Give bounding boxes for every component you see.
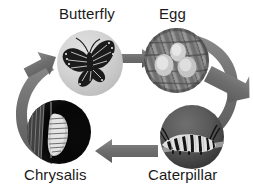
butterfly-life-cycle-diagram: Butterfly bbox=[0, 0, 253, 191]
egg-photo bbox=[144, 28, 209, 93]
butterfly-illustration bbox=[57, 30, 123, 96]
chrysalis-illustration bbox=[27, 100, 91, 164]
arrow-caterpillar-to-chrysalis bbox=[95, 139, 158, 163]
stage-label-egg: Egg bbox=[159, 5, 186, 22]
stage-label-butterfly: Butterfly bbox=[59, 5, 115, 22]
chrysalis-photo bbox=[27, 100, 91, 164]
caterpillar-illustration bbox=[160, 105, 224, 169]
stage-label-chrysalis: Chrysalis bbox=[24, 166, 87, 183]
stage-label-caterpillar: Caterpillar bbox=[148, 166, 217, 183]
butterfly-photo bbox=[57, 30, 123, 96]
egg-illustration bbox=[144, 28, 209, 93]
caterpillar-photo bbox=[160, 105, 224, 169]
